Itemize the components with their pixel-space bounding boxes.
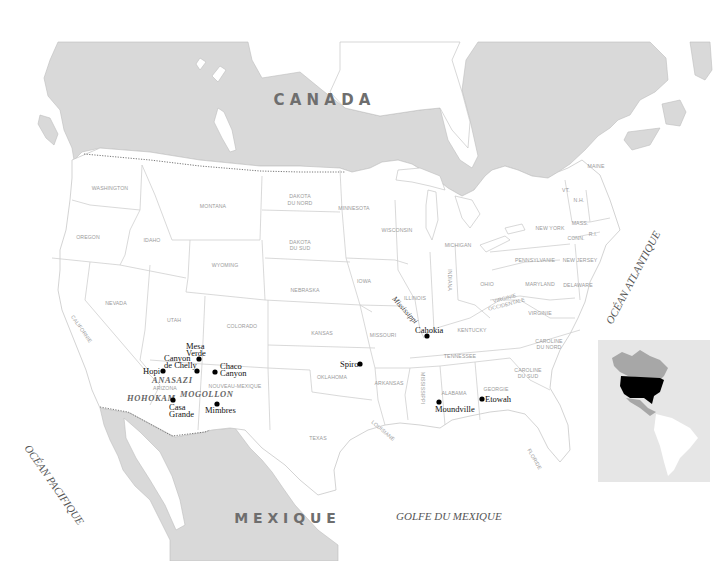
state-label-nebraska: NEBRASKA — [290, 287, 319, 293]
inset-locator-map — [598, 340, 710, 482]
state-label-minnesota: MINNESOTA — [338, 205, 370, 211]
state-label-north-carolina-2: DU NORD — [537, 344, 562, 350]
state-label-missouri: MISSOURI — [370, 332, 396, 338]
site-marker-chaco-canyon[interactable] — [212, 369, 217, 374]
state-label-south-dakota-2: DU SUD — [290, 245, 311, 251]
state-label-idaho: IDAHO — [144, 237, 161, 243]
state-label-wyoming: WYOMING — [212, 262, 239, 268]
state-label-new-hampshire: N.H. — [574, 197, 585, 203]
nova-scotia — [624, 128, 660, 150]
state-label-delaware: DELAWARE — [563, 282, 593, 288]
vancouver-island — [38, 115, 58, 145]
state-label-oregon: OREGON — [76, 234, 100, 240]
state-label-vermont: VT. — [562, 187, 570, 193]
state-label-rhode-island: R.I. — [589, 231, 597, 237]
state-label-montana: MONTANA — [200, 203, 227, 209]
state-label-ohio: OHIO — [480, 281, 494, 287]
ocean-label-gulf: GOLFE DU MEXIQUE — [396, 510, 502, 522]
state-label-virginia: VIRGINIE — [528, 310, 552, 316]
state-label-mississippi: MISSISSIPPI — [420, 372, 426, 404]
state-label-maine: MAINE — [588, 163, 605, 169]
state-label-connecticut: CONN. — [567, 235, 584, 241]
state-label-arkansas: ARKANSAS — [374, 380, 403, 386]
newfoundland — [662, 100, 686, 126]
east-island — [690, 42, 712, 80]
state-label-nevada: NEVADA — [105, 300, 127, 306]
site-label-etowah: Etowah — [485, 394, 512, 404]
state-label-new-york: NEW YORK — [536, 225, 565, 231]
site-label-hopi: Hopi — [143, 366, 161, 376]
state-label-pennsylvania: PENNSYLVANIE — [515, 257, 556, 263]
state-label-kentucky: KENTUCKY — [457, 327, 486, 333]
state-label-florida: FLORIDE — [526, 447, 543, 470]
state-label-new-jersey: NEW JERSEY — [563, 257, 598, 263]
state-label-utah: UTAH — [167, 317, 181, 323]
site-marker-hopi[interactable] — [160, 368, 165, 373]
country-label-canada: C A N A D A — [274, 91, 371, 109]
site-label-moundville: Moundville — [435, 404, 475, 414]
site-label-canyon-de-chelly-2: de Chelly — [164, 360, 198, 370]
state-label-illinois: ILLINOIS — [404, 295, 427, 301]
state-label-north-dakota-2: DU NORD — [288, 200, 313, 206]
state-label-north-dakota-1: DAKOTA — [289, 193, 311, 199]
state-label-michigan: MICHIGAN — [445, 242, 472, 248]
state-label-tennessee: TENNESSEE — [444, 353, 477, 359]
site-label-mimbres: Mimbres — [205, 405, 236, 415]
culture-label-mogollon: MOGOLLON — [179, 389, 234, 399]
state-label-oklahoma: OKLAHOMA — [317, 374, 348, 380]
site-label-spiro: Spiro — [340, 359, 358, 369]
state-label-alabama: ALABAMA — [441, 390, 467, 396]
map-canvas: C A N A D A M E X I Q U E OCÉAN ATLANTIQ… — [0, 0, 725, 561]
state-label-maryland: MARYLAND — [525, 281, 555, 287]
ocean-label-pacific: OCÉAN PACIFIQUE — [22, 442, 86, 527]
site-label-chaco-canyon-2: Canyon — [220, 368, 247, 378]
ocean-label-atlantic: OCÉAN ATLANTIQUE — [603, 229, 662, 326]
state-label-south-carolina-2: DU SUD — [518, 373, 539, 379]
state-label-iowa: IOWA — [357, 278, 371, 284]
state-label-colorado: COLORADO — [227, 323, 258, 329]
state-label-kansas: KANSAS — [311, 330, 333, 336]
state-label-wisconsin: WISCONSIN — [382, 227, 413, 233]
state-label-indiana: INDIANA — [447, 269, 453, 291]
culture-label-anasazi: ANASAZI — [151, 375, 193, 385]
site-label-casa-grande-2: Grande — [169, 409, 194, 419]
state-label-massachusetts: MASS. — [572, 220, 589, 226]
country-label-mexico: M E X I Q U E — [234, 510, 336, 526]
site-label-cahokia: Cahokia — [415, 325, 444, 335]
site-marker-etowah[interactable] — [479, 396, 484, 401]
state-label-washington: WASHINGTON — [92, 185, 129, 191]
state-label-georgia: GEORGIE — [484, 386, 509, 392]
state-label-texas: TEXAS — [309, 435, 327, 441]
state-label-arizona: ARIZONA — [153, 385, 177, 391]
